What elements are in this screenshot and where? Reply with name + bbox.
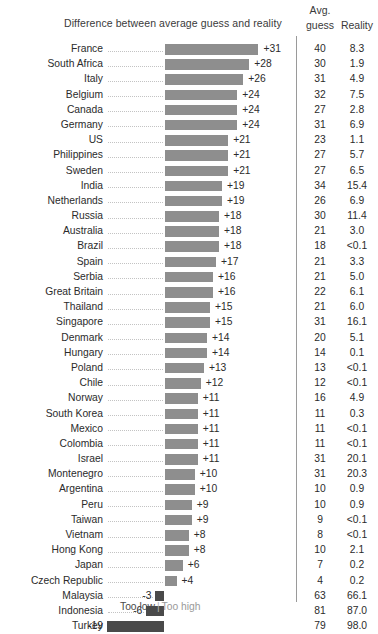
value-label: +14 — [212, 347, 229, 358]
chart-row: Denmark+14205.1 — [0, 331, 378, 346]
value-label: +14 — [212, 332, 229, 343]
country-label: Italy — [0, 73, 103, 84]
value-bar — [165, 348, 207, 359]
avg-guess-value: 18 — [303, 240, 337, 251]
value-bar — [165, 59, 250, 70]
value-label: +26 — [248, 73, 265, 84]
country-label: South Korea — [0, 408, 103, 419]
chart-row: South Korea+11110.3 — [0, 407, 378, 422]
reality-value: 1.1 — [336, 134, 378, 145]
country-label: South Africa — [0, 58, 103, 69]
reality-value: 5.1 — [336, 332, 378, 343]
chart-row: Serbia+16215.0 — [0, 270, 378, 285]
value-bar — [165, 484, 195, 495]
country-label: India — [0, 180, 103, 191]
country-label: Hungary — [0, 347, 103, 358]
avg-guess-value: 32 — [303, 89, 337, 100]
reality-value: 11.4 — [336, 210, 378, 221]
reality-value: <0.1 — [336, 423, 378, 434]
chart-row: Sweden+21276.5 — [0, 164, 378, 179]
country-label: Russia — [0, 210, 103, 221]
value-bar — [165, 44, 259, 55]
leader-line — [108, 294, 163, 296]
value-bar — [165, 181, 223, 192]
leader-line — [108, 142, 163, 144]
leader-line — [108, 111, 163, 113]
leader-line — [108, 521, 163, 523]
value-label: +11 — [203, 438, 220, 449]
avg-guess-header-line1: Avg. — [305, 4, 335, 16]
value-label: +13 — [209, 362, 226, 373]
country-label: France — [0, 43, 103, 54]
leader-line — [108, 51, 163, 53]
chart-row: Hungary+14140.1 — [0, 346, 378, 361]
chart-row: South Africa+28301.9 — [0, 57, 378, 72]
avg-guess-value: 79 — [303, 620, 337, 631]
country-label: Vietnam — [0, 529, 103, 540]
leader-line — [108, 339, 163, 341]
value-bar — [165, 469, 195, 480]
value-bar — [165, 105, 238, 116]
value-label: +18 — [224, 210, 241, 221]
avg-guess-value: 20 — [303, 332, 337, 343]
value-bar — [165, 317, 210, 328]
country-label: Australia — [0, 225, 103, 236]
avg-guess-value: 30 — [303, 58, 337, 69]
leader-line — [108, 248, 163, 250]
value-bar — [165, 545, 189, 556]
reality-column-header: Reality — [336, 19, 378, 31]
value-label: +24 — [242, 119, 259, 130]
reality-value: 0.9 — [336, 483, 378, 494]
leader-line — [108, 461, 163, 463]
leader-line — [108, 415, 163, 417]
country-label: Philippines — [0, 149, 103, 160]
chart-row: Philippines+21275.7 — [0, 148, 378, 163]
value-label: +11 — [203, 423, 220, 434]
leader-line — [108, 126, 163, 128]
country-label: Japan — [0, 559, 103, 570]
chart-row: Australia+18213.0 — [0, 224, 378, 239]
reality-value: 0.1 — [336, 347, 378, 358]
reality-value: 20.1 — [336, 453, 378, 464]
reality-value: 1.9 — [336, 58, 378, 69]
reality-value: 16.1 — [336, 316, 378, 327]
avg-guess-value: 21 — [303, 225, 337, 236]
country-label: Great Britain — [0, 286, 103, 297]
avg-guess-value: 16 — [303, 392, 337, 403]
avg-guess-value: 23 — [303, 134, 337, 145]
value-bar — [165, 393, 198, 404]
chart-row: Brazil+1818<0.1 — [0, 239, 378, 254]
chart-row: Spain+17213.3 — [0, 255, 378, 270]
country-label: Taiwan — [0, 514, 103, 525]
leader-line — [108, 369, 163, 371]
reality-value: 5.0 — [336, 271, 378, 282]
reality-value: 87.0 — [336, 605, 378, 616]
reality-value: 2.1 — [336, 544, 378, 555]
chart-row: Czech Republic+440.2 — [0, 574, 378, 589]
chart-row: Argentina+10100.9 — [0, 482, 378, 497]
avg-guess-value: 10 — [303, 499, 337, 510]
avg-guess-value: 31 — [303, 119, 337, 130]
value-bar — [165, 333, 207, 344]
reality-value: <0.1 — [336, 438, 378, 449]
avg-guess-value: 81 — [303, 605, 337, 616]
value-bar — [155, 591, 164, 602]
leader-line — [108, 582, 163, 584]
chart-row: Taiwan+99<0.1 — [0, 513, 378, 528]
value-label: +9 — [197, 499, 209, 510]
country-label: Poland — [0, 362, 103, 373]
value-label: +6 — [188, 559, 200, 570]
value-label: +28 — [254, 58, 271, 69]
chart-row: Russia+183011.4 — [0, 209, 378, 224]
country-label: Mexico — [0, 423, 103, 434]
leader-line — [108, 476, 163, 478]
value-bar — [165, 454, 198, 465]
avg-guess-value: 34 — [303, 180, 337, 191]
value-label: +11 — [203, 453, 220, 464]
value-bar — [165, 287, 213, 298]
reality-value: <0.1 — [336, 240, 378, 251]
reality-value: 6.9 — [336, 195, 378, 206]
reality-value: 98.0 — [336, 620, 378, 631]
leader-line — [108, 491, 163, 493]
